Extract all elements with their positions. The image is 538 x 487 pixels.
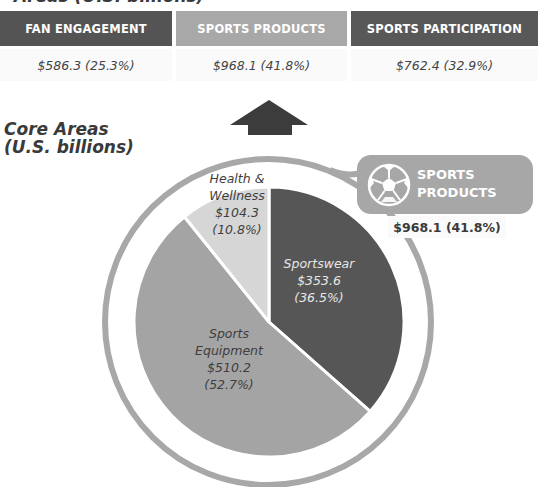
slice-label: Sports [209,326,250,341]
callout-label: SPORTS PRODUCTS [417,166,497,202]
callout-line1: SPORTS [417,166,497,184]
slice-label: Equipment [195,343,264,358]
slice-label: $510.2 [207,360,251,375]
sports-products-callout: SPORTS PRODUCTS [357,155,533,214]
slice-label: Sportswear [284,256,356,271]
pie-chart: Sportswear$353.6(36.5%)SportsEquipment$5… [0,0,538,487]
up-arrow-icon [230,100,308,135]
slice-label: (52.7%) [204,377,253,392]
slice-label: $104.3 [215,205,259,220]
callout-value-text: $968.1 (41.8%) [393,220,500,235]
soccer-ball-icon [365,161,413,209]
slice-label: $353.6 [297,273,341,288]
slice-label: Health & [210,171,265,186]
slice-label: (36.5%) [294,290,343,305]
slice-label: (10.8%) [212,222,261,237]
callout-value: $968.1 (41.8%) [388,216,506,238]
slice-label: Wellness [209,188,265,203]
callout-line2: PRODUCTS [417,184,497,202]
